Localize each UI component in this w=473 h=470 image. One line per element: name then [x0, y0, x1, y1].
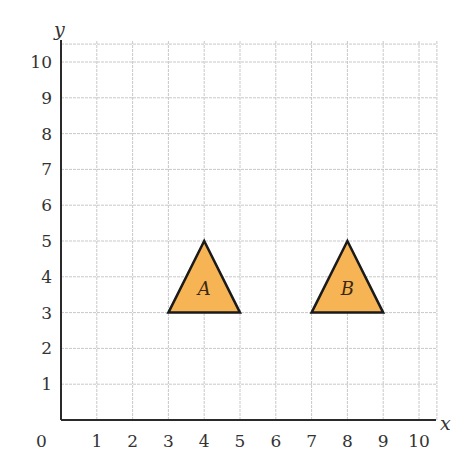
y-tick-label: 6	[41, 195, 52, 215]
y-axis-label: y	[53, 18, 65, 40]
origin-label: 0	[36, 431, 47, 451]
x-tick-label: 3	[163, 431, 174, 451]
y-tick-label: 8	[41, 124, 52, 144]
y-tick-label: 9	[41, 88, 52, 108]
x-tick-label: 5	[235, 431, 246, 451]
x-tick-label: 7	[306, 431, 317, 451]
y-tick-label: 4	[41, 267, 52, 287]
y-tick-label: 10	[30, 52, 52, 72]
grid-lines	[61, 40, 437, 420]
x-axis-label: x	[440, 412, 451, 434]
axes	[61, 40, 436, 420]
x-tick-label: 10	[408, 431, 430, 451]
triangle-label-a: A	[196, 278, 211, 299]
y-tick-label: 1	[41, 374, 52, 394]
x-tick-label: 6	[270, 431, 281, 451]
x-tick-label: 8	[342, 431, 353, 451]
triangle-label-b: B	[340, 278, 354, 299]
x-tick-label: 9	[378, 431, 389, 451]
y-tick-label: 2	[41, 338, 52, 358]
x-tick-label: 2	[127, 431, 138, 451]
x-tick-label: 1	[91, 431, 102, 451]
x-tick-label: 4	[199, 431, 210, 451]
y-tick-label: 3	[41, 303, 52, 323]
tick-labels: 1234567891012345678910	[30, 52, 429, 451]
coordinate-grid: AB 1234567891012345678910 x y 0	[0, 0, 473, 470]
y-tick-label: 7	[41, 159, 52, 179]
y-tick-label: 5	[41, 231, 52, 251]
